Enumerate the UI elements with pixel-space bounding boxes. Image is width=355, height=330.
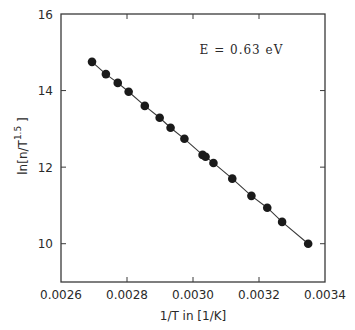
data-point — [155, 113, 164, 122]
x-tick-label: 0.0032 — [238, 288, 280, 302]
x-tick-label: 0.0030 — [172, 288, 214, 302]
x-tick-label: 0.0028 — [106, 288, 148, 302]
data-point — [304, 239, 313, 248]
x-tick-label: 0.0034 — [304, 288, 346, 302]
y-tick-label: 12 — [38, 161, 53, 175]
data-point — [209, 159, 218, 168]
data-point — [228, 174, 237, 183]
annotations: E = 0.63 eV — [200, 43, 284, 57]
data-point — [102, 70, 111, 79]
data-point — [124, 87, 133, 96]
energy-annotation: E = 0.63 eV — [200, 43, 284, 57]
y-tick-label: 16 — [38, 8, 53, 22]
data-point — [263, 203, 272, 212]
data-point — [201, 153, 210, 162]
x-tick-label: 0.0026 — [40, 288, 82, 302]
plot-frame — [61, 14, 325, 282]
plot-border — [61, 14, 325, 282]
data-point — [278, 218, 287, 227]
data-point — [113, 79, 122, 88]
x-axis-label: 1/T in [1/K] — [160, 309, 227, 323]
data-point — [141, 102, 150, 111]
y-axis-label: ln[n/T1.5 ] — [13, 117, 30, 174]
y-tick-label: 10 — [38, 237, 53, 251]
data-point — [166, 123, 175, 132]
data-series — [88, 58, 313, 248]
data-point — [247, 192, 256, 201]
data-point — [88, 58, 97, 67]
y-tick-label: 14 — [38, 84, 53, 98]
chart: 0.00260.00280.00300.00320.003410121416 E… — [0, 0, 355, 330]
data-point — [180, 135, 189, 144]
axis-ticks: 0.00260.00280.00300.00320.003410121416 — [38, 8, 346, 303]
